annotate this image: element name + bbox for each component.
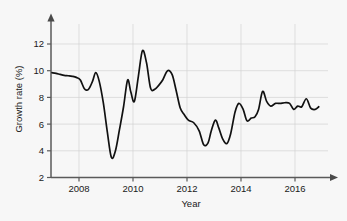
y-tick-label: 8 — [39, 92, 44, 103]
x-tick-label: 2008 — [68, 183, 89, 194]
x-axis-title: Year — [181, 198, 200, 209]
x-tick-label: 2014 — [230, 183, 251, 194]
y-tick-label: 4 — [39, 145, 44, 156]
x-tick-label: 2010 — [122, 183, 143, 194]
y-tick-label: 12 — [33, 38, 44, 49]
y-tick-label: 10 — [33, 65, 44, 76]
chart-figure: 24681012 20082010201220142016 Year Growt… — [0, 0, 347, 221]
y-tick-label: 2 — [39, 172, 44, 183]
x-tick-label: 2012 — [176, 183, 197, 194]
growth-rate-line-chart: 24681012 20082010201220142016 Year Growt… — [0, 0, 347, 221]
y-tick-label: 6 — [39, 119, 44, 130]
y-axis-title: Growth rate (%) — [13, 65, 24, 132]
x-tick-label: 2016 — [284, 183, 305, 194]
